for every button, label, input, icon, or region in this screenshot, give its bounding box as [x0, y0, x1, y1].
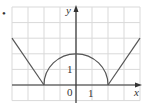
- x-tick-1: 1: [88, 87, 94, 99]
- function-graph: • y x 1 0 1: [0, 0, 146, 111]
- x-axis: [12, 83, 142, 88]
- y-axis-label: y: [65, 4, 71, 16]
- y-tick-1: 1: [67, 63, 73, 75]
- figure-marker: •: [2, 7, 6, 19]
- x-axis-label: x: [133, 86, 139, 98]
- origin-label: 0: [67, 86, 73, 98]
- y-axis-arrow-icon: [74, 5, 79, 12]
